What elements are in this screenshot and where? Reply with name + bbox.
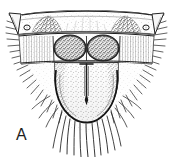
pore-right [143,25,149,30]
figure-panel: A [0,0,173,157]
panel-label: A [16,127,27,143]
median-lobe-left [54,35,86,61]
median-lobe-right [87,35,119,61]
lateral-hatch-right [120,36,151,63]
lateral-hatch-left [22,36,52,63]
pore-left [24,25,30,30]
